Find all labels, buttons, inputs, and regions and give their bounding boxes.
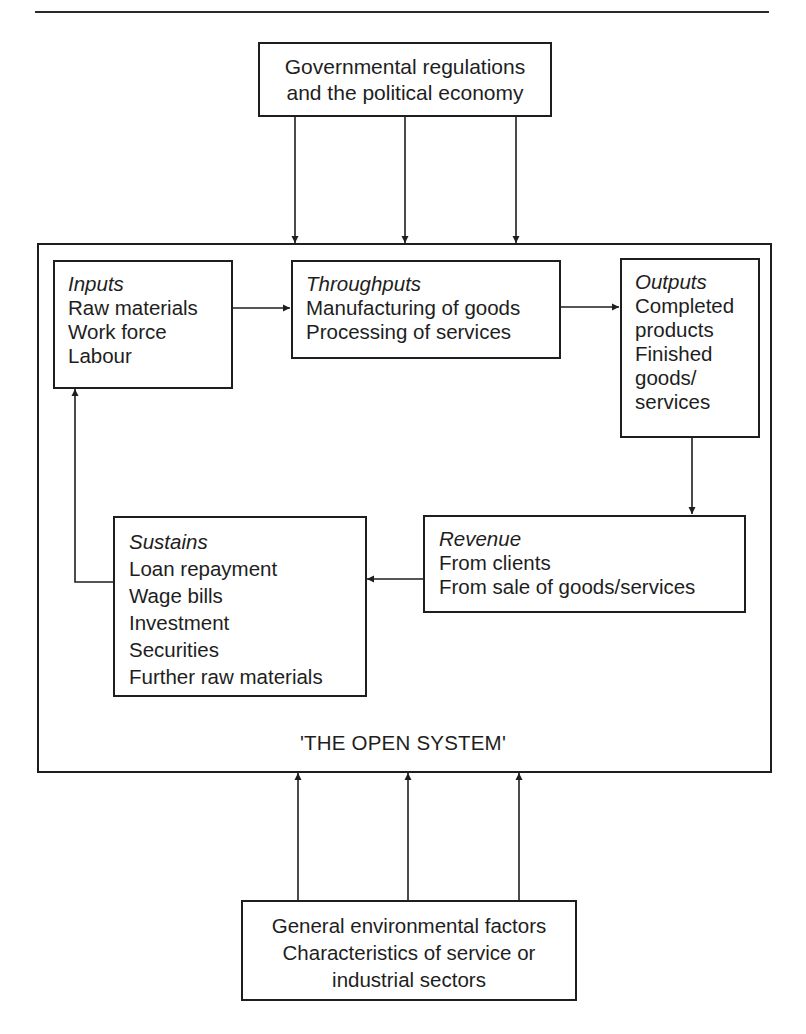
throughputs-item: Processing of services (306, 320, 559, 344)
outputs-item: products (635, 318, 758, 342)
open-system-label: 'THE OPEN SYSTEM' (0, 731, 806, 755)
throughputs-item: Manufacturing of goods (306, 296, 559, 320)
outputs-item: services (635, 390, 758, 414)
sustains-item: Further raw materials (129, 663, 365, 690)
sustains-box: Sustains Loan repayment Wage bills Inves… (113, 516, 367, 697)
sustains-item: Loan repayment (129, 555, 365, 582)
inputs-item: Work force (68, 320, 231, 344)
sustains-to-inputs-arrow (75, 389, 113, 582)
sustains-title: Sustains (129, 528, 365, 555)
sustains-item: Securities (129, 636, 365, 663)
governmental-regulations-box: Governmental regulations and the politic… (258, 42, 552, 117)
throughputs-box: Throughputs Manufacturing of goods Proce… (291, 260, 561, 359)
inputs-title: Inputs (68, 272, 231, 296)
inputs-box: Inputs Raw materials Work force Labour (53, 260, 233, 389)
revenue-item: From clients (439, 551, 744, 575)
revenue-box: Revenue From clients From sale of goods/… (423, 515, 746, 613)
outputs-box: Outputs Completed products Finished good… (620, 258, 760, 438)
bottom-box-line: industrial sectors (243, 966, 575, 993)
inputs-item: Raw materials (68, 296, 231, 320)
outputs-item: Finished (635, 342, 758, 366)
revenue-title: Revenue (439, 527, 744, 551)
bottom-box-line: Characteristics of service or (243, 939, 575, 966)
throughputs-title: Throughputs (306, 272, 559, 296)
top-box-line: Governmental regulations (260, 54, 550, 80)
inputs-item: Labour (68, 344, 231, 368)
bottom-box-line: General environmental factors (243, 912, 575, 939)
outputs-item: goods/ (635, 366, 758, 390)
sustains-item: Investment (129, 609, 365, 636)
outputs-title: Outputs (635, 270, 758, 294)
outputs-item: Completed (635, 294, 758, 318)
revenue-item: From sale of goods/services (439, 575, 744, 599)
sustains-item: Wage bills (129, 582, 365, 609)
environmental-factors-box: General environmental factors Characteri… (241, 900, 577, 1001)
top-box-line: and the political economy (260, 80, 550, 106)
